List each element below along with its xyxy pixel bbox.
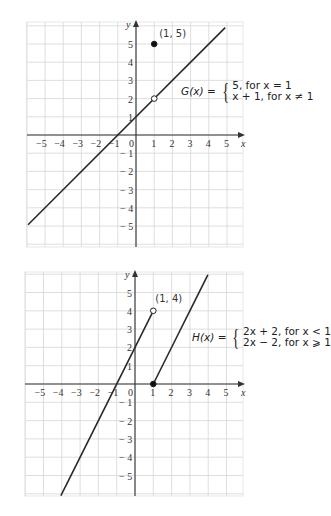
case-2: x + 1, for x ≠ 1 <box>232 91 313 102</box>
y-axis-label: y <box>125 19 131 30</box>
function-name: G(x) = <box>181 86 216 97</box>
y-tick-label: − 3 <box>120 185 133 196</box>
x-tick-label: 3 <box>188 138 193 149</box>
y-tick-label: 5 <box>128 39 133 50</box>
y-tick-label: − 3 <box>119 434 132 445</box>
curves <box>61 275 208 496</box>
case-2: 2x − 2, for x ⩾ 1 <box>243 337 331 348</box>
y-tick-label: − 2 <box>119 416 132 427</box>
x-tick-label: 4 <box>206 138 211 149</box>
y-tick-label: − 5 <box>119 471 132 482</box>
y-tick-label: 2 <box>127 342 132 353</box>
x-tick-label: −5 <box>35 387 46 398</box>
graph-h: xy −5−4−3−2−101234554321− 1− 2− 3− 4− 5 … <box>0 260 322 516</box>
y-tick-label: − 4 <box>119 452 132 463</box>
x-tick-label: 3 <box>187 387 192 398</box>
x-tick-label: −2 <box>89 387 100 398</box>
x-axis-label: x <box>240 387 246 398</box>
y-tick-label: 3 <box>127 324 132 335</box>
point-label: (1, 4) <box>155 293 182 304</box>
closed-point <box>151 41 157 47</box>
y-arrow-icon <box>132 270 138 277</box>
graph-g: xy −5−4−3−2−101234554321− 1− 2− 3− 4− 5 … <box>0 0 322 260</box>
formula-g: G(x) = { 5, for x = 1 x + 1, for x ≠ 1 <box>181 80 313 102</box>
y-tick-label: 3 <box>128 75 133 86</box>
y-arrow-icon <box>133 20 139 27</box>
axes: xy <box>25 269 246 496</box>
x-tick-label: −2 <box>91 138 102 149</box>
x-tick-label: 5 <box>224 138 229 149</box>
y-tick-label: − 5 <box>120 221 133 232</box>
points: (1, 4) <box>151 293 183 387</box>
axes: xy <box>27 19 246 247</box>
open-point <box>151 96 157 102</box>
function-line <box>61 311 153 496</box>
x-axis-label: x <box>240 138 246 149</box>
x-tick-label: 2 <box>169 138 174 149</box>
x-tick-label: −3 <box>71 387 82 398</box>
y-tick-label: 4 <box>128 57 133 68</box>
x-tick-label: 1 <box>151 138 156 149</box>
y-tick-label: − 2 <box>120 166 133 177</box>
point-label: (1, 5) <box>159 28 186 39</box>
x-tick-label: 2 <box>169 387 174 398</box>
formula-h: H(x) = { 2x + 2, for x < 1 2x − 2, for x… <box>192 326 331 348</box>
y-tick-label: − 4 <box>120 203 133 214</box>
closed-point <box>151 381 157 387</box>
x-tick-label: −5 <box>36 138 47 149</box>
x-tick-label: 5 <box>224 387 229 398</box>
x-tick-label: 4 <box>205 387 210 398</box>
y-tick-label: 4 <box>127 306 132 317</box>
brace-icon: { <box>222 80 229 102</box>
x-tick-label: −4 <box>53 387 64 398</box>
y-axis-label: y <box>124 269 130 280</box>
y-tick-label: − 1 <box>120 148 133 159</box>
open-point <box>151 308 157 314</box>
function-name: H(x) = <box>192 332 226 343</box>
y-tick-label: − 1 <box>119 397 132 408</box>
y-tick-label: 2 <box>128 94 133 105</box>
y-tick-label: 5 <box>127 288 132 299</box>
x-tick-label: −4 <box>54 138 65 149</box>
x-tick-label: −3 <box>72 138 83 149</box>
brace-icon: { <box>233 326 240 348</box>
x-tick-label: 1 <box>150 387 155 398</box>
